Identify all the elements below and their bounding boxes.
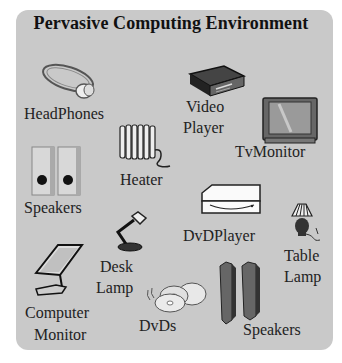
diagram-title: Pervasive Computing Environment bbox=[0, 13, 342, 34]
label-table-lamp-2: Lamp bbox=[284, 267, 321, 287]
dvd-player-icon bbox=[200, 183, 262, 217]
label-computer-monitor-2: Monitor bbox=[34, 325, 86, 345]
label-computer-monitor-1: Computer bbox=[25, 303, 89, 323]
label-speakers-left: Speakers bbox=[24, 198, 82, 218]
label-video-player-1: Video bbox=[186, 97, 224, 117]
label-speakers-right: Speakers bbox=[243, 320, 301, 340]
tower-speakers-icon bbox=[218, 260, 264, 326]
label-table-lamp-1: Table bbox=[284, 246, 319, 266]
label-tv-monitor: TvMonitor bbox=[235, 142, 305, 162]
tv-icon bbox=[261, 96, 319, 146]
label-dvds: DvDs bbox=[139, 316, 176, 336]
headphones-icon bbox=[40, 60, 98, 102]
label-desk-lamp-2: Lamp bbox=[96, 278, 133, 298]
monitor-icon bbox=[32, 243, 84, 297]
table-lamp-icon bbox=[286, 200, 326, 244]
speakers-icon bbox=[30, 145, 84, 197]
dvd-discs-icon bbox=[144, 280, 208, 314]
label-heater: Heater bbox=[120, 170, 163, 190]
heater-icon bbox=[118, 122, 172, 170]
label-video-player-2: Player bbox=[183, 118, 224, 138]
label-headphones: HeadPhones bbox=[24, 104, 104, 124]
label-dvd-player: DvDPlayer bbox=[183, 226, 255, 246]
label-desk-lamp-1: Desk bbox=[100, 257, 133, 277]
desk-lamp-icon bbox=[112, 210, 148, 252]
video-player-icon bbox=[186, 64, 246, 98]
